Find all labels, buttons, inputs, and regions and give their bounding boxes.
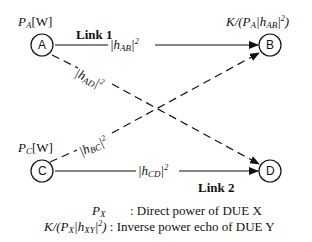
node-b-label: B	[266, 39, 274, 51]
node-d-label: D	[266, 165, 275, 177]
link1-gain: |hAB|2	[110, 38, 139, 53]
legend-row-direct-power: PX: Direct power of DUE X	[66, 204, 262, 219]
node-a-label: A	[38, 39, 46, 51]
interference-ad-line-a	[52, 55, 78, 68]
legend-symbol-echo: K/(PX|hXY|2)	[44, 219, 107, 234]
interference-cb-line-b	[112, 53, 259, 133]
node-c-power: PC[W]	[18, 141, 53, 156]
node-b-echo: K/(PA|hAB|2)	[226, 15, 289, 30]
legend-desc-direct-power: : Direct power of DUE X	[130, 203, 262, 218]
legend-desc-inverse-echo: : Inverse power echo of DUE Y	[110, 219, 275, 234]
interference-ad-line-b	[112, 84, 259, 164]
interference-cb-line-a	[50, 150, 77, 162]
link2-gain: |hCD|2	[138, 164, 168, 179]
link1-title: Link 1	[76, 28, 113, 41]
legend-symbol-px: PX	[66, 204, 130, 219]
legend-row-inverse-echo: K/(PX|hXY|2) : Inverse power echo of DUE…	[44, 220, 275, 235]
link2-title: Link 2	[198, 181, 235, 194]
node-c-label: C	[38, 165, 47, 177]
node-a-power: PA[W]	[18, 15, 52, 30]
